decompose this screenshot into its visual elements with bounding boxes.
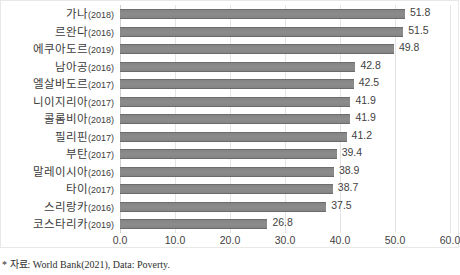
category-year: (2017) <box>88 80 114 90</box>
x-tick-label: 10.0 <box>165 234 185 246</box>
bar-row: 49.8 <box>120 40 450 59</box>
category-year: (2017) <box>88 185 114 195</box>
x-tick-label: 60.0 <box>440 234 460 246</box>
bar-value-label: 26.8 <box>272 216 292 228</box>
bar-row: 42.8 <box>120 58 450 77</box>
bar-row: 51.8 <box>120 5 450 24</box>
bar-value-label: 51.8 <box>410 6 430 18</box>
category-country: 니이지리아 <box>33 96 88 108</box>
bar <box>120 79 354 89</box>
category-country: 르완다 <box>55 26 88 38</box>
category-country: 남아공 <box>55 61 88 73</box>
category-country: 에쿠아도르 <box>33 43 88 55</box>
bar <box>120 62 355 72</box>
x-tick-label: 20.0 <box>220 234 240 246</box>
bar-value-label: 37.5 <box>331 199 351 211</box>
category-label: 니이지리아(2017) <box>33 96 114 110</box>
category-year: (2017) <box>88 150 114 160</box>
bar-row: 38.9 <box>120 163 450 182</box>
category-label: 콜롬비아(2018) <box>44 113 114 127</box>
category-year: (2016) <box>88 63 114 73</box>
bar-value-label: 38.9 <box>339 164 359 176</box>
bar <box>120 97 350 107</box>
category-country: 말레이시아 <box>33 166 88 178</box>
category-label: 남아공(2016) <box>55 61 114 75</box>
category-year: (2017) <box>88 133 114 143</box>
bar-row: 37.5 <box>120 198 450 217</box>
category-year: (2016) <box>88 168 114 178</box>
category-year: (2019) <box>88 45 114 55</box>
category-year: (2016) <box>88 203 114 213</box>
bar-row: 41.9 <box>120 93 450 112</box>
category-country: 코스타리카 <box>33 218 88 230</box>
category-label: 스리랑카(2016) <box>44 201 114 215</box>
bar-row: 39.4 <box>120 145 450 164</box>
bar <box>120 219 267 229</box>
bar-row: 51.5 <box>120 23 450 42</box>
bar-value-label: 39.4 <box>342 146 362 158</box>
category-axis: 가나(2018)르완다(2016)에쿠아도르(2019)남아공(2016)엘살바… <box>1 5 114 233</box>
x-axis: 0.010.020.030.040.050.060.0 <box>120 234 450 248</box>
x-tick-label: 40.0 <box>330 234 350 246</box>
bar-value-label: 49.8 <box>399 41 419 53</box>
bar <box>120 132 347 142</box>
bar-row: 38.7 <box>120 180 450 199</box>
category-country: 가나 <box>66 8 88 20</box>
category-label: 부탄(2017) <box>66 148 114 162</box>
bar-row: 26.8 <box>120 215 450 234</box>
category-country: 콜롬비아 <box>44 113 88 125</box>
bar <box>120 44 394 54</box>
category-label: 필리핀(2017) <box>55 131 114 145</box>
bar <box>120 184 333 194</box>
bar-value-label: 51.5 <box>408 24 428 36</box>
bar <box>120 149 337 159</box>
category-country: 스리랑카 <box>44 201 88 213</box>
bar <box>120 9 405 19</box>
bar <box>120 167 334 177</box>
category-year: (2016) <box>88 28 114 38</box>
gridline <box>450 5 451 233</box>
bar-row: 41.9 <box>120 110 450 129</box>
bar-value-label: 42.8 <box>360 59 380 71</box>
category-country: 엘살바도르 <box>33 78 88 90</box>
category-label: 르완다(2016) <box>55 26 114 40</box>
category-label: 에쿠아도르(2019) <box>33 43 114 57</box>
x-tick-label: 0.0 <box>113 234 128 246</box>
category-label: 말레이시아(2016) <box>33 166 114 180</box>
plot-area: 51.851.549.842.842.541.941.941.239.438.9… <box>120 5 450 233</box>
bar <box>120 202 326 212</box>
bar-value-label: 41.9 <box>355 94 375 106</box>
category-label: 엘살바도르(2017) <box>33 78 114 92</box>
category-country: 부탄 <box>66 148 88 160</box>
category-year: (2019) <box>88 220 114 230</box>
bar-series: 51.851.549.842.842.541.941.941.239.438.9… <box>120 5 450 233</box>
x-tick-label: 50.0 <box>385 234 405 246</box>
chart-frame: 가나(2018)르완다(2016)에쿠아도르(2019)남아공(2016)엘살바… <box>0 0 459 248</box>
category-country: 타이 <box>66 183 88 195</box>
category-label: 가나(2018) <box>66 8 114 22</box>
bar-row: 42.5 <box>120 75 450 94</box>
bar <box>120 114 350 124</box>
category-label: 코스타리카(2019) <box>33 218 114 232</box>
category-year: (2017) <box>88 98 114 108</box>
category-label: 타이(2017) <box>66 183 114 197</box>
bar-row: 41.2 <box>120 128 450 147</box>
bar <box>120 27 403 37</box>
category-country: 필리핀 <box>55 131 88 143</box>
bar-value-label: 38.7 <box>338 181 358 193</box>
category-year: (2018) <box>88 10 114 20</box>
bar-value-label: 41.2 <box>352 129 372 141</box>
bar-value-label: 41.9 <box>355 111 375 123</box>
category-year: (2018) <box>88 115 114 125</box>
x-tick-label: 30.0 <box>275 234 295 246</box>
bar-value-label: 42.5 <box>359 76 379 88</box>
source-footnote: * 자료: World Bank(2021), Data: Poverty. <box>2 256 170 271</box>
